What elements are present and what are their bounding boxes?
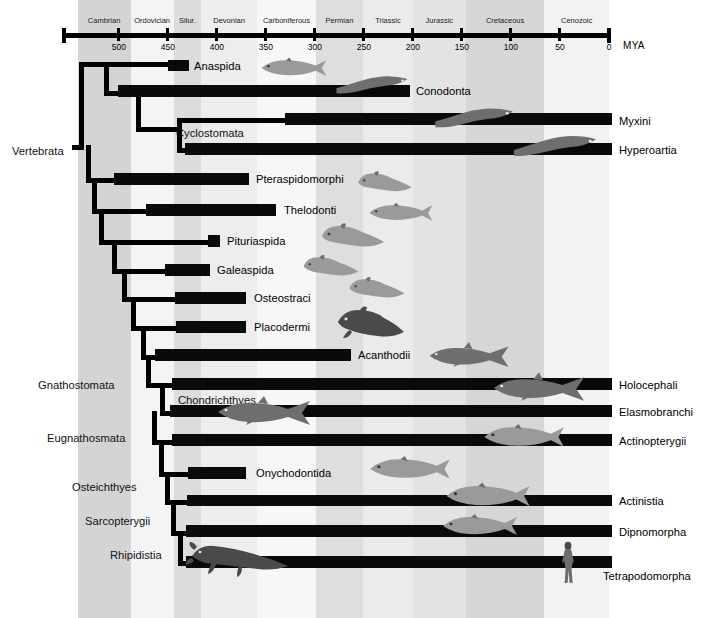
taxon-label-conodonta: Conodonta [416,85,471,97]
duration-bar-placodermi [176,321,246,333]
branch-vertical [136,91,141,132]
branch-horizontal [136,127,178,132]
clade-label-vertebrata: Vertebrata [12,145,64,157]
onychodontida-silhouette [366,456,452,482]
taxon-label-pituriaspida: Pituriaspida [227,235,285,247]
taxon-label-actinistia: Actinistia [619,495,664,507]
duration-bar-thelodonti [146,204,276,216]
taxon-label-placodermi: Placodermi [254,321,310,333]
elasmobranchi-silhouette [214,396,314,426]
branch-vertical [99,209,104,245]
branch-vertical [122,269,127,302]
actinopterygii-silhouette [480,424,566,450]
taxon-label-dipnomorpha: Dipnomorpha [619,526,686,538]
branch-vertical [171,500,176,536]
taxon-label-thelodonti: Thelodonti [284,204,336,216]
myxini-silhouette [430,105,518,129]
cladogram: AnaspidaConodontaCyclostomataMyxiniHyper… [0,0,718,618]
branch-vertical [92,178,97,214]
duration-bar-anaspida [168,60,189,71]
branch-vertical [86,145,91,183]
taxon-label-elasmobranchi: Elasmobranchi [619,406,693,418]
anaspida-silhouette [258,57,328,79]
taxon-label-tetrapodomorpha: Tetrapodomorpha [603,570,691,582]
taxon-label-actinopterygii: Actinopterygii [619,435,686,447]
placodermi-silhouette [334,306,408,340]
clade-label-sarcopterygii: Sarcopterygii [85,515,150,527]
duration-bar-pteraspidomorphi [114,173,249,185]
taxon-label-onychodontida: Onychodontida [256,467,331,479]
duration-bar-acanthodii [155,349,351,361]
branch-vertical [152,411,157,445]
branch-vertical [146,355,151,388]
branch-vertical [178,531,183,566]
pituriaspida-silhouette [316,222,390,252]
duration-bar-actinistia [187,495,612,506]
branch-vertical [112,240,117,274]
branch-horizontal [177,118,287,123]
taxon-label-galeaspida: Galeaspida [217,264,274,276]
branch-horizontal [112,269,167,274]
taxon-label-osteostraci: Osteostraci [254,292,311,304]
clade-label-gnathostomata: Gnathostomata [38,379,115,391]
branch-vertical [160,383,165,416]
pteraspidomorphi-silhouette [346,170,424,196]
branch-vertical [159,440,164,477]
clade-label-osteichthyes: Osteichthyes [72,481,137,493]
duration-bar-pituriaspida [208,235,220,247]
conodonta-silhouette [330,73,414,95]
clade-label-eugnathosmata: Eugnathosmata [47,432,125,444]
branch-vertical [79,62,84,150]
acanthodii-silhouette [426,340,512,370]
taxon-label-myxini: Myxini [619,115,651,127]
duration-bar-onychodontida [188,467,246,479]
taxon-label-hyperoartia: Hyperoartia [619,144,677,156]
clade-label-rhipidistia: Rhipidistia [110,549,162,561]
tetrapodomorpha-silhouette [186,536,290,578]
branch-horizontal [131,326,178,331]
taxon-label-pteraspidomorphi: Pteraspidomorphi [256,173,344,185]
duration-bar-galeaspida [165,264,210,276]
taxon-label-acanthodii: Acanthodii [358,349,410,361]
holocephali-silhouette2 [490,370,588,404]
taxon-label-anaspida: Anaspida [194,60,241,72]
taxon-label-holocephali: Holocephali [619,379,677,391]
branch-vertical [165,472,170,505]
hyperoartia-silhouette [512,130,598,160]
actinistia-silhouette [442,482,532,510]
human-silhouette [556,540,580,594]
taxon-label-cyclostomata: Cyclostomata [176,127,244,139]
osteostraci-silhouette [346,272,408,306]
branch-horizontal [79,62,169,67]
branch-vertical [131,297,136,331]
duration-bar-osteostraci [175,292,246,304]
branch-vertical [104,62,109,96]
phylogeny-figure: CambrianOrdovicianSilur.DevonianCarbonif… [0,0,718,618]
dipnomorpha-silhouette [436,514,522,538]
